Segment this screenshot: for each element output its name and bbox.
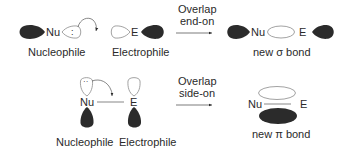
open-lobe <box>128 78 140 96</box>
sigma-bond-product: Nu E new σ bond <box>227 25 334 58</box>
pi-bond-label: new π bond <box>252 128 310 140</box>
e-atom-label: E <box>131 26 138 38</box>
pi-orbital-upper-lobe <box>259 87 296 100</box>
end-on-arrow: Overlap end-on <box>176 3 217 33</box>
nu-atom-label: Nu <box>46 26 60 38</box>
e-atom-label: E <box>299 26 306 38</box>
sigma-bond-label: new σ bond <box>253 46 311 58</box>
side-on-nucleophile: ·· Nu Nucleophile <box>56 77 124 148</box>
open-lobe <box>111 26 130 38</box>
side-on-arrow: Overlap side-on <box>176 75 217 105</box>
filled-lobe <box>128 107 141 128</box>
pi-bond-product: Nu E new π bond <box>248 87 310 141</box>
nucleophile-label: Nucleophile <box>28 46 85 58</box>
end-on-nucleophile: Nu : Nucleophile <box>20 18 97 58</box>
filled-lobe <box>80 107 93 128</box>
filled-lobe <box>20 25 46 39</box>
e-atom-label: E <box>300 98 307 110</box>
nu-atom-label: Nu <box>251 26 265 38</box>
filled-lobe <box>141 25 164 39</box>
lone-pair: ·· <box>83 77 88 86</box>
electrophile-label: Electrophile <box>119 136 176 148</box>
orbital-overlap-diagram: Nu : Nucleophile E Electrophile Overlap … <box>0 0 347 158</box>
sigma-bonding-orbital <box>268 26 295 38</box>
lone-pair: : <box>71 27 74 37</box>
e-atom-label: E <box>130 96 137 108</box>
pi-orbital-lower-lobe <box>259 108 297 124</box>
end-on-electrophile: E Electrophile <box>111 25 169 58</box>
filled-lobe <box>312 25 334 39</box>
arrow-label-line1: Overlap <box>178 75 217 87</box>
nu-atom-label: Nu <box>80 96 94 108</box>
arrow-label-line2: end-on <box>180 15 214 27</box>
arrow-label-line1: Overlap <box>178 3 217 15</box>
curved-arrow-icon <box>92 80 112 96</box>
nucleophile-label: Nucleophile <box>56 136 113 148</box>
side-on-electrophile: E Electrophile <box>119 78 176 148</box>
electrophile-label: Electrophile <box>112 46 169 58</box>
filled-lobe <box>227 25 250 39</box>
nu-atom-label: Nu <box>248 98 262 110</box>
arrow-label-line2: side-on <box>179 87 215 99</box>
